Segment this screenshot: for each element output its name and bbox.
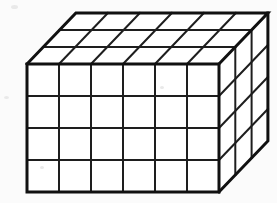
- figure-container: [0, 0, 277, 203]
- rectangular-prism-diagram: [0, 0, 277, 203]
